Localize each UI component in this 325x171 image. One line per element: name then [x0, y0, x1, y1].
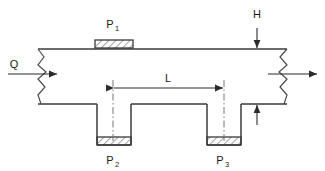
p1-label-subscript: 1: [115, 24, 119, 33]
l-label: L: [165, 72, 171, 84]
p1-label: P: [106, 18, 113, 30]
cavity-p2: [97, 104, 131, 145]
h-label: H: [253, 8, 261, 20]
q-label: Q: [10, 58, 19, 70]
diagram-canvas: P 1 P 2 P 3 L H: [0, 0, 325, 171]
p2-label-subscript: 2: [115, 160, 119, 169]
p1-block: [95, 40, 133, 48]
diagram-root: P 1 P 2 P 3 L H: [0, 0, 325, 171]
p2-block: [97, 137, 131, 145]
p3-label-subscript: 3: [225, 160, 229, 169]
break-line-right: [279, 49, 287, 104]
p3-label: P: [216, 154, 223, 166]
p2-label: P: [106, 154, 113, 166]
pressure-tap-p1: [95, 40, 133, 48]
break-line-left: [38, 49, 46, 104]
channel-outline: [38, 49, 287, 104]
